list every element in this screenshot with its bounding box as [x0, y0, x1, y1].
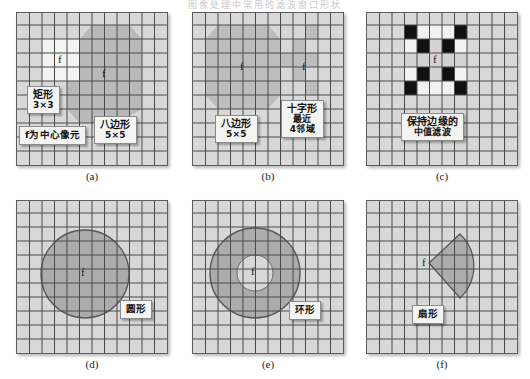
cross-extra-b	[306, 25, 319, 39]
panel-d-canvas	[17, 201, 167, 353]
f-marker-f: f	[422, 257, 426, 268]
panel-e-canvas	[193, 201, 343, 353]
octagon-label-a: 八边形 5×5	[94, 116, 137, 144]
panel-a: f f 矩形 3×3 f为中心像元 八边形 5×5 (a)	[16, 12, 168, 187]
f-marker-c: f	[433, 54, 437, 65]
cut-off-header-text: 图像处理中常用的滤波窗口形状	[0, 0, 530, 9]
panel-c-canvas	[367, 13, 517, 165]
panel-e: f 环形 (e)	[192, 200, 344, 375]
panel-b-caption: (b)	[192, 170, 344, 182]
panel-a-grid: f f 矩形 3×3 f为中心像元 八边形 5×5	[16, 12, 168, 166]
panel-d-grid: f 圆形	[16, 200, 168, 354]
f-marker-cross-b: f	[302, 61, 306, 72]
panel-d: f 圆形 (d)	[16, 200, 168, 375]
panel-b-grid: f f 八边形 5×5 十字形 最近 4邻域	[192, 12, 344, 166]
rect-label: 矩形 3×3	[27, 86, 60, 114]
figure-root: 图像处理中常用的滤波窗口形状	[0, 0, 530, 379]
median-filter-label: 保持边缘的 中值滤波	[401, 113, 464, 141]
center-pixel-label: f为中心像元	[19, 126, 86, 145]
panel-c-grid: f 保持边缘的 中值滤波	[366, 12, 518, 166]
f-marker-octagon: f	[102, 68, 106, 79]
panel-c: f 保持边缘的 中值滤波 (c)	[366, 12, 518, 187]
panel-d-caption: (d)	[16, 358, 168, 370]
panel-f-grid: f 扇形	[366, 200, 518, 354]
panel-e-grid: f 环形	[192, 200, 344, 354]
f-marker-d: f	[81, 267, 85, 278]
panel-f: f 扇形 (f)	[366, 200, 518, 375]
cross-extra2-b	[306, 81, 319, 95]
circle-label: 圆形	[120, 300, 152, 319]
panel-c-caption: (c)	[366, 170, 518, 182]
octagon-label-b: 八边形 5×5	[215, 115, 258, 143]
panel-e-caption: (e)	[192, 358, 344, 370]
panel-a-caption: (a)	[16, 170, 168, 182]
panel-f-canvas	[367, 201, 517, 353]
sector-label: 扇形	[412, 305, 444, 324]
f-marker-octagon-b: f	[240, 61, 244, 72]
panel-f-caption: (f)	[366, 358, 518, 370]
panel-b: f f 八边形 5×5 十字形 最近 4邻域 (b)	[192, 12, 344, 187]
f-marker-rect: f	[58, 54, 62, 65]
f-marker-e: f	[251, 266, 255, 277]
cross-label-b: 十字形 最近 4邻域	[281, 100, 324, 138]
annulus-label: 环形	[289, 301, 321, 320]
